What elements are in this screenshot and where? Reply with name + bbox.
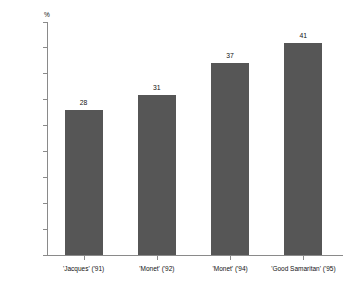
x-tick-label: 'Monet' ('92) (139, 264, 174, 273)
bar-value-label: 31 (138, 83, 176, 92)
bar-value-label: 28 (65, 98, 103, 107)
x-tick-label: 'Monet' ('94) (213, 264, 248, 273)
bar (284, 43, 322, 255)
x-tick-label: 'Good Samaritan' ('95) (271, 264, 335, 273)
x-tick-mark (230, 256, 231, 260)
x-tick-mark (303, 256, 304, 260)
bar-column: 37 (211, 22, 249, 255)
bar-chart: % 051015202530354045 28313741 'Jacques' … (0, 0, 359, 295)
bar (138, 95, 176, 256)
plot-area: 28313741 (47, 22, 340, 255)
bar-value-label: 37 (211, 51, 249, 60)
x-tick-mark (157, 256, 158, 260)
bar-column: 31 (138, 22, 176, 255)
bar-value-label: 41 (284, 31, 322, 40)
bar-column: 41 (284, 22, 322, 255)
bar (65, 110, 103, 255)
y-axis-unit-label: % (44, 11, 50, 19)
bar-column: 28 (65, 22, 103, 255)
x-tick-label: 'Jacques' ('91) (63, 264, 104, 273)
bar (211, 63, 249, 255)
x-tick-mark (84, 256, 85, 260)
x-axis-line (47, 255, 343, 256)
